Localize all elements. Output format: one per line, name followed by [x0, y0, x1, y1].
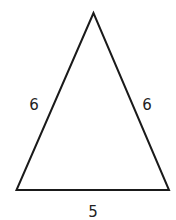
base-label: 5	[88, 203, 98, 220]
left-side-label: 6	[29, 96, 39, 114]
triangle-diagram: 6 6 5	[0, 0, 176, 220]
right-side-label: 6	[142, 96, 152, 114]
